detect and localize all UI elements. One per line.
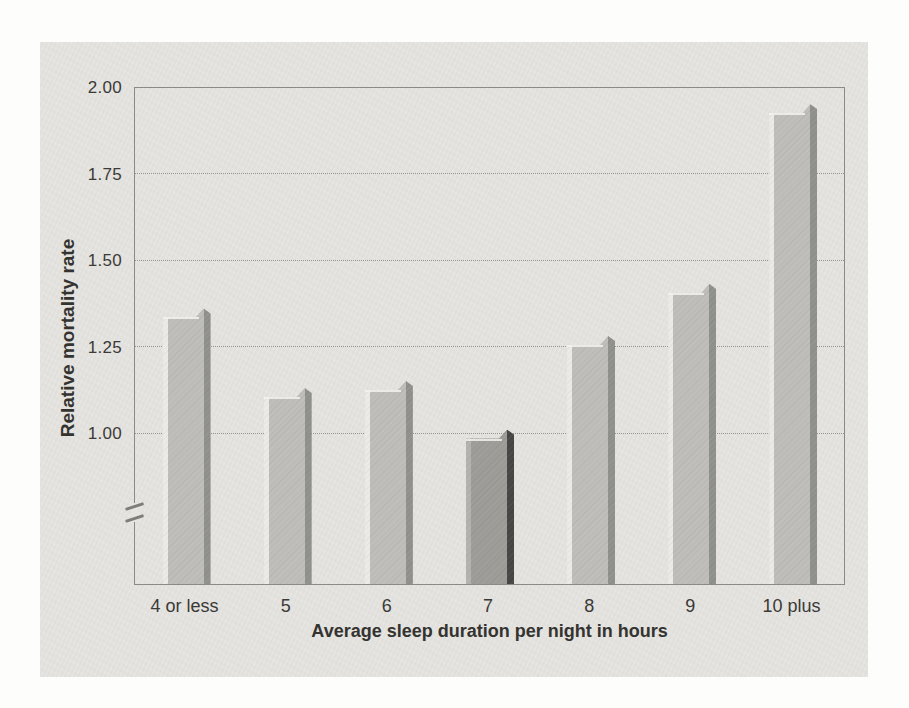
bar-top-highlight <box>264 397 300 399</box>
bar-8 <box>567 336 615 584</box>
gridline-1.25 <box>135 346 844 347</box>
bar-top-highlight <box>567 345 603 347</box>
y-tick-label-1.50: 1.50 <box>36 251 122 271</box>
y-tick-label-1.75: 1.75 <box>36 165 122 185</box>
bar-top-highlight <box>769 113 805 115</box>
bar-scan-texture <box>365 381 413 584</box>
gridline-1.50 <box>135 260 844 261</box>
gridline-1.75 <box>135 173 844 174</box>
bar-9 <box>668 284 716 584</box>
figure-canvas: Relative mortality rate 2.001.751.501.25… <box>0 0 909 708</box>
bar-top-highlight <box>466 439 502 441</box>
bar-5 <box>264 388 312 584</box>
x-category-label-10-plus: 10 plus <box>726 596 856 617</box>
bar-scan-texture <box>769 104 817 584</box>
bar-scan-texture <box>163 308 211 584</box>
y-tick-label-2.00: 2.00 <box>36 78 122 98</box>
bar-scan-texture <box>567 336 615 584</box>
plot-area <box>134 87 845 585</box>
bar-top-highlight <box>365 390 401 392</box>
bar-10-plus <box>769 104 817 584</box>
y-tick-label-1.00: 1.00 <box>36 424 122 444</box>
bar-scan-texture <box>264 388 312 584</box>
bar-6 <box>365 381 413 584</box>
bar-top-highlight <box>668 293 704 295</box>
bar-scan-texture <box>466 430 514 585</box>
bar-top-highlight <box>163 317 199 319</box>
bar-4-or-less <box>163 308 211 584</box>
bar-7 <box>466 430 514 585</box>
x-axis-title: Average sleep duration per night in hour… <box>134 621 845 642</box>
bar-scan-texture <box>668 284 716 584</box>
y-tick-label-1.25: 1.25 <box>36 338 122 358</box>
